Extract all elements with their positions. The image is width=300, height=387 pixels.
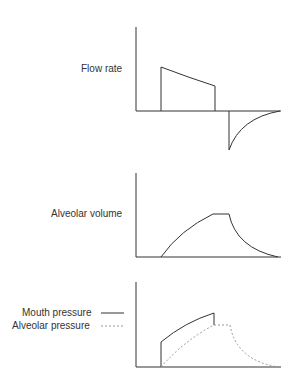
- alveolar-volume-panel: [136, 173, 281, 257]
- mouth-pressure-curve: [161, 313, 214, 367]
- pressure-panel: [101, 282, 281, 367]
- volume-curve: [161, 214, 278, 257]
- mouth-pressure-legend-label: Mouth pressure: [22, 307, 91, 318]
- alveolar-pressure-curve: [161, 325, 278, 367]
- flow-rate-label: Flow rate: [81, 63, 122, 74]
- flow-inspiration-curve: [161, 67, 215, 111]
- flow-expiration-curve: [229, 111, 280, 150]
- alveolar-volume-label: Alveolar volume: [51, 208, 122, 219]
- alveolar-pressure-legend-label: Alveolar pressure: [12, 320, 90, 331]
- flow-rate-panel: [136, 27, 281, 150]
